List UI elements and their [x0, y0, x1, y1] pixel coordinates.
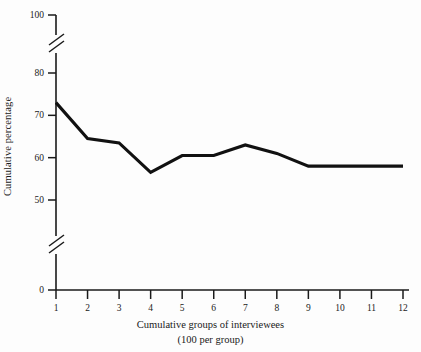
- x-axis-tick-label: 6: [211, 303, 216, 313]
- x-axis-title: Cumulative groups of interviewees: [0, 319, 421, 330]
- y-axis-tick-label: 60: [8, 153, 44, 163]
- x-axis-tick-label: 12: [398, 303, 408, 313]
- line-chart: 050607080100 123456789101112 Cumulative …: [0, 0, 421, 352]
- x-axis-tick-label: 5: [180, 303, 185, 313]
- x-axis-tick-label: 2: [85, 303, 90, 313]
- y-axis-tick-label: 0: [8, 285, 44, 295]
- y-axis-tick-label: 100: [8, 10, 44, 20]
- x-axis-subtitle: (100 per group): [0, 334, 421, 345]
- x-axis-tick-label: 1: [54, 303, 59, 313]
- plot-area: [0, 0, 421, 352]
- y-axis-tick-label: 80: [8, 68, 44, 78]
- y-axis-tick-label: 70: [8, 110, 44, 120]
- x-axis-tick-label: 8: [274, 303, 279, 313]
- x-axis-ticks: [56, 290, 403, 299]
- x-axis-tick-label: 4: [148, 303, 153, 313]
- x-axis-tick-label: 9: [306, 303, 311, 313]
- axis-lines: [56, 15, 409, 290]
- x-axis-tick-label: 3: [117, 303, 122, 313]
- y-axis-title: Cumulative percentage: [2, 97, 13, 196]
- y-axis-tick-label: 50: [8, 195, 44, 205]
- x-axis-tick-label: 7: [243, 303, 248, 313]
- x-axis-tick-label: 10: [335, 303, 345, 313]
- data-series-line: [56, 103, 403, 173]
- x-axis-tick-label: 11: [367, 303, 376, 313]
